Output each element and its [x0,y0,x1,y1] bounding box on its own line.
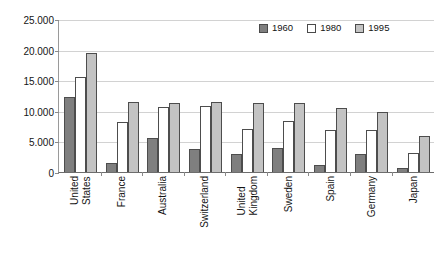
bar-group [102,20,144,172]
x-axis-label-cell: Germany [351,176,393,256]
x-axis-tick-label: Sweden [283,176,295,212]
x-axis-label-cell: Japan [393,176,435,256]
bar-1960 [231,154,242,172]
bar-1980 [242,129,253,172]
bar-group [309,20,351,172]
y-tick-mark [55,142,59,143]
bar-1960 [355,154,366,172]
bar-1960 [189,149,200,172]
bar-1980 [158,107,169,172]
y-axis-tick-label: 10.000 [23,107,54,118]
bar-1980 [117,122,128,172]
bar-1995 [128,102,139,172]
bar-1995 [419,136,430,172]
y-tick-mark [55,51,59,52]
x-axis-tick-label: Switzerland [199,176,211,228]
bar-1960 [272,148,283,172]
bar-group [60,20,102,172]
x-axis-tick-label: Australia [158,176,170,215]
x-axis-label-cell: Australia [143,176,185,256]
bar-chart: 1960 1980 1995 05.00010.00015.00020.0002… [0,0,442,258]
x-axis-label-cell: Spain [310,176,352,256]
bar-1995 [211,102,222,172]
y-axis-tick-label: 15.000 [23,76,54,87]
x-axis-label-cell: UnitedStates [59,176,101,256]
bar-group [185,20,227,172]
x-axis-tick-label: Spain [325,176,337,202]
x-axis-tick-label: UnitedStates [68,176,91,205]
bar-1980 [408,153,419,172]
bar-1980 [200,106,211,172]
y-tick-mark [55,173,59,174]
y-axis-tick-label: 20.000 [23,46,54,57]
bar-1980 [75,77,86,172]
bar-1995 [169,103,180,172]
bar-1995 [86,53,97,172]
x-axis-tick-label: UnitedKingdom [236,176,259,215]
y-tick-mark [55,20,59,21]
y-tick-mark [55,112,59,113]
x-axis-tick-label: Germany [367,176,379,217]
bar-1980 [366,130,377,172]
bar-1980 [283,121,294,172]
bar-1960 [314,165,325,172]
bar-group [226,20,268,172]
x-axis-label-cell: France [101,176,143,256]
bar-1960 [397,168,408,172]
x-axis-label-cell: Switzerland [184,176,226,256]
bar-1995 [294,103,305,172]
bar-1960 [147,138,158,172]
x-axis-label-cell: Sweden [268,176,310,256]
bar-1995 [377,112,388,172]
x-axis-label-cell: UnitedKingdom [226,176,268,256]
bar-group [351,20,393,172]
y-axis-tick-label: 0 [48,168,54,179]
y-axis-tick-label: 25.000 [23,15,54,26]
x-axis-labels: UnitedStatesFranceAustraliaSwitzerlandUn… [59,176,435,256]
bar-1995 [253,103,264,172]
bar-group [268,20,310,172]
bar-group [143,20,185,172]
bar-1995 [336,108,347,172]
plot-area: 05.00010.00015.00020.00025.000 [58,20,434,173]
y-axis-tick-label: 5.000 [29,137,54,148]
x-axis-tick-label: France [116,176,128,207]
x-axis-tick-label: Japan [408,176,420,203]
bar-1960 [106,163,117,172]
bar-1960 [64,97,75,172]
bar-group [393,20,435,172]
bar-groups [60,20,434,172]
y-tick-mark [55,81,59,82]
bar-1980 [325,130,336,172]
